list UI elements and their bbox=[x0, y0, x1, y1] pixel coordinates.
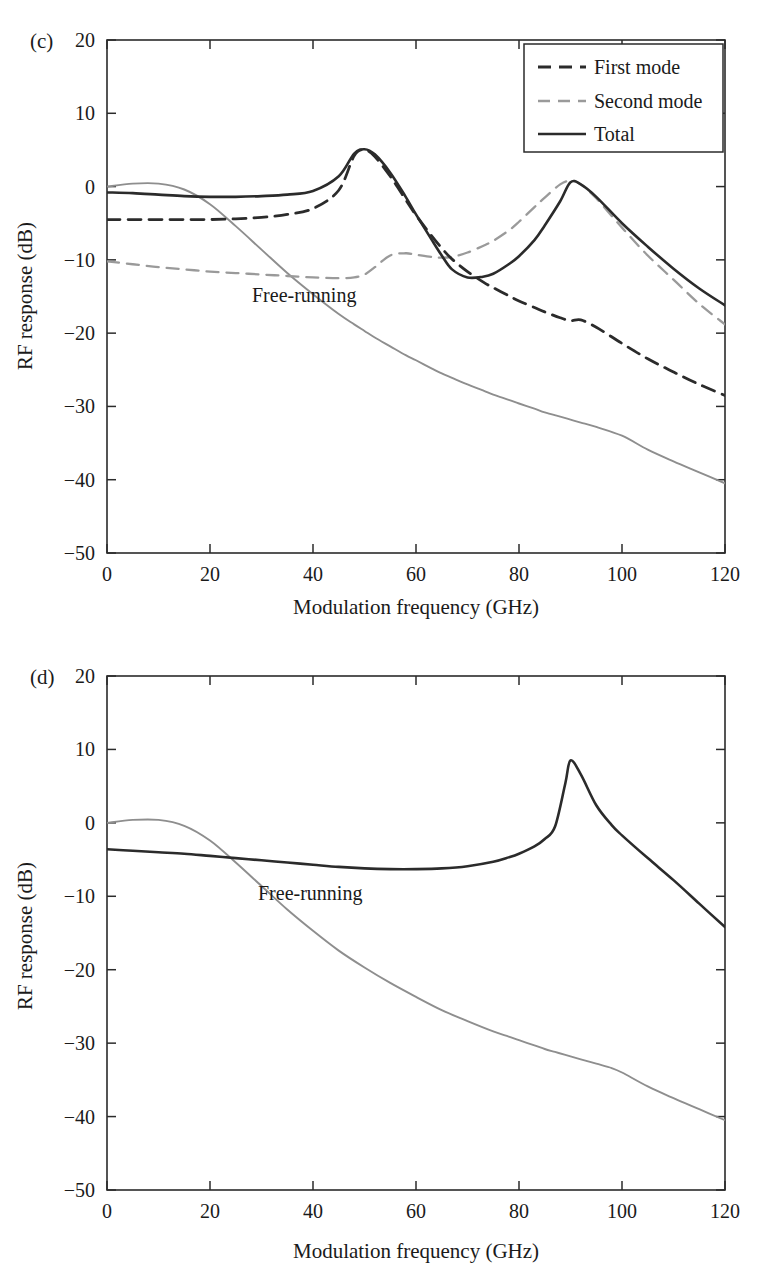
x-tick-label: 100 bbox=[607, 1200, 637, 1222]
legend-label-first-mode: First mode bbox=[594, 56, 680, 78]
curve-first-mode bbox=[107, 150, 725, 396]
x-tick-label: 20 bbox=[200, 1200, 220, 1222]
y-tick-label: 0 bbox=[85, 176, 95, 198]
curve-free-running bbox=[107, 819, 725, 1120]
x-tick-label: 20 bbox=[200, 563, 220, 585]
y-tick-label: −20 bbox=[64, 322, 95, 344]
x-tick-label: 80 bbox=[509, 563, 529, 585]
curve-free-running bbox=[107, 183, 725, 483]
x-tick-label: 40 bbox=[303, 1200, 323, 1222]
y-tick-label: −40 bbox=[64, 1106, 95, 1128]
y-tick-label: 20 bbox=[75, 665, 95, 687]
panel-c-xaxis-title: Modulation frequency (GHz) bbox=[293, 595, 539, 619]
x-tick-label: 0 bbox=[102, 1200, 112, 1222]
y-tick-label: −50 bbox=[64, 1179, 95, 1201]
y-tick-label: 10 bbox=[75, 102, 95, 124]
y-tick-label: 20 bbox=[75, 29, 95, 51]
panel-c-curves bbox=[107, 149, 725, 483]
panel-d-tag: (d) bbox=[30, 665, 55, 689]
y-tick-label: 10 bbox=[75, 738, 95, 760]
x-tick-label: 40 bbox=[303, 563, 323, 585]
panel-d-curves bbox=[107, 760, 725, 1120]
panel-d-free-running-label: Free-running bbox=[258, 882, 362, 905]
y-tick-label: −50 bbox=[64, 542, 95, 564]
panel-d-axes: 02040608010012020100−10−20−30−40−50 bbox=[64, 665, 740, 1222]
panel-c-tag: (c) bbox=[30, 29, 53, 53]
panel-c-free-running-label: Free-running bbox=[252, 284, 356, 307]
figure-rf-response: 02040608010012020100−10−20−30−40−50 Firs… bbox=[0, 0, 773, 1287]
x-tick-label: 100 bbox=[607, 563, 637, 585]
panel-d: 02040608010012020100−10−20−30−40−50 (d) … bbox=[0, 636, 773, 1287]
curve-total bbox=[107, 760, 725, 927]
panel-d-plot: 02040608010012020100−10−20−30−40−50 (d) … bbox=[0, 636, 773, 1287]
y-tick-label: −40 bbox=[64, 469, 95, 491]
legend-label-total: Total bbox=[594, 123, 635, 145]
x-tick-label: 80 bbox=[509, 1200, 529, 1222]
panel-d-xaxis-title: Modulation frequency (GHz) bbox=[293, 1239, 539, 1263]
y-tick-label: 0 bbox=[85, 812, 95, 834]
panel-c-plot: 02040608010012020100−10−20−30−40−50 Firs… bbox=[0, 0, 773, 640]
y-tick-label: −30 bbox=[64, 1032, 95, 1054]
panel-c-yaxis-title: RF response (dB) bbox=[13, 222, 37, 370]
curve-second-mode bbox=[107, 181, 725, 325]
x-tick-label: 120 bbox=[710, 563, 740, 585]
y-tick-label: −30 bbox=[64, 395, 95, 417]
y-tick-label: −20 bbox=[64, 959, 95, 981]
panel-d-yaxis-title: RF response (dB) bbox=[13, 862, 37, 1010]
x-tick-label: 120 bbox=[710, 1200, 740, 1222]
x-tick-label: 60 bbox=[406, 563, 426, 585]
legend-label-second-mode: Second mode bbox=[594, 90, 702, 112]
x-tick-label: 60 bbox=[406, 1200, 426, 1222]
curve-total bbox=[107, 149, 725, 305]
y-tick-label: −10 bbox=[64, 249, 95, 271]
y-tick-label: −10 bbox=[64, 885, 95, 907]
panel-c: 02040608010012020100−10−20−30−40−50 Firs… bbox=[0, 0, 773, 640]
panel-c-legend: First modeSecond modeTotal bbox=[524, 44, 723, 152]
x-tick-label: 0 bbox=[102, 563, 112, 585]
